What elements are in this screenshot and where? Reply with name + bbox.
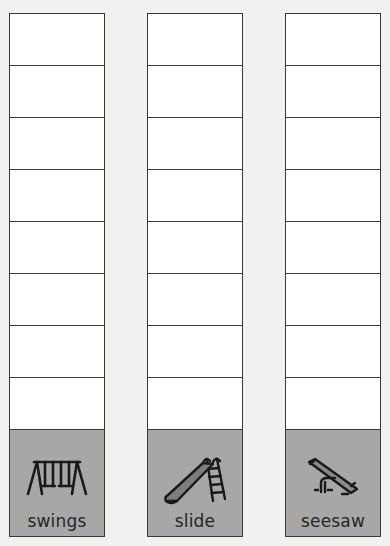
tally-cell[interactable]: [10, 118, 104, 170]
graph-column-seesaw: seesaw: [285, 13, 381, 537]
category-label-cell: slide: [148, 430, 242, 536]
tally-cell[interactable]: [10, 66, 104, 118]
tally-cell[interactable]: [286, 170, 380, 222]
tally-cell[interactable]: [10, 170, 104, 222]
graph-column-swings: swings: [9, 13, 105, 537]
tally-cell[interactable]: [286, 118, 380, 170]
category-label: swings: [10, 511, 104, 531]
tally-cell[interactable]: [148, 274, 242, 326]
tally-cell[interactable]: [286, 378, 380, 430]
tally-cell[interactable]: [286, 222, 380, 274]
tally-cell[interactable]: [148, 14, 242, 66]
tally-cell[interactable]: [10, 326, 104, 378]
tally-cell[interactable]: [148, 170, 242, 222]
tally-cell[interactable]: [286, 326, 380, 378]
category-label-cell: seesaw: [286, 430, 380, 536]
graph-column-slide: slide: [147, 13, 243, 537]
tally-cell[interactable]: [286, 274, 380, 326]
tally-cell[interactable]: [148, 222, 242, 274]
category-label: seesaw: [286, 511, 380, 531]
tally-cell[interactable]: [286, 66, 380, 118]
seesaw-icon: [301, 456, 365, 506]
tally-cell[interactable]: [10, 274, 104, 326]
tally-cell[interactable]: [148, 378, 242, 430]
category-label: slide: [148, 511, 242, 531]
tally-cell[interactable]: [148, 118, 242, 170]
swing-set-icon: [25, 456, 89, 506]
category-label-cell: swings: [10, 430, 104, 536]
tally-cell[interactable]: [148, 66, 242, 118]
tally-cell[interactable]: [10, 222, 104, 274]
tally-cell[interactable]: [10, 378, 104, 430]
tally-cell[interactable]: [10, 14, 104, 66]
tally-cell[interactable]: [286, 14, 380, 66]
slide-icon: [163, 452, 227, 508]
tally-cell[interactable]: [148, 326, 242, 378]
